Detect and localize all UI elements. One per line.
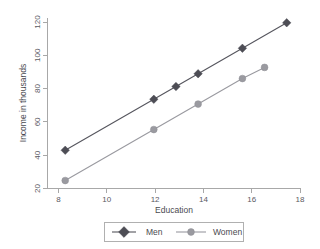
y-tick-label: 20 — [33, 184, 42, 193]
x-tick-label: 16 — [247, 195, 256, 204]
y-tick-label: 80 — [33, 84, 42, 93]
x-axis-ticks — [59, 189, 301, 194]
chart-legend: Men Women — [105, 223, 244, 242]
legend-women-label: Women — [213, 227, 242, 237]
data-point — [62, 177, 69, 184]
y-tick-label: 100 — [33, 48, 42, 62]
legend-women-marker — [188, 229, 195, 236]
x-tick-label: 8 — [56, 195, 61, 204]
x-tick-label: 12 — [151, 195, 160, 204]
y-axis-tick-labels: 20 40 60 80 100 120 — [33, 15, 42, 193]
y-axis-title: Income in thousands — [18, 64, 28, 142]
chart-figure: 20 40 60 80 100 120 Income in thousands … — [0, 0, 320, 249]
plot-area-background — [47, 18, 301, 188]
data-point — [150, 126, 157, 133]
y-tick-label: 60 — [33, 117, 42, 126]
x-tick-label: 14 — [199, 195, 208, 204]
y-tick-label: 40 — [33, 150, 42, 159]
y-tick-label: 120 — [33, 15, 42, 29]
data-point — [239, 75, 246, 82]
x-axis-tick-labels: 8 10 12 14 16 18 — [56, 195, 305, 204]
x-tick-label: 18 — [296, 195, 305, 204]
x-axis-title: Education — [155, 205, 193, 215]
y-axis-ticks — [43, 22, 48, 189]
legend-men-label: Men — [146, 227, 163, 237]
data-point — [195, 101, 202, 108]
chart-svg: 20 40 60 80 100 120 Income in thousands … — [0, 0, 320, 249]
x-tick-label: 10 — [102, 195, 111, 204]
data-point — [261, 64, 268, 71]
